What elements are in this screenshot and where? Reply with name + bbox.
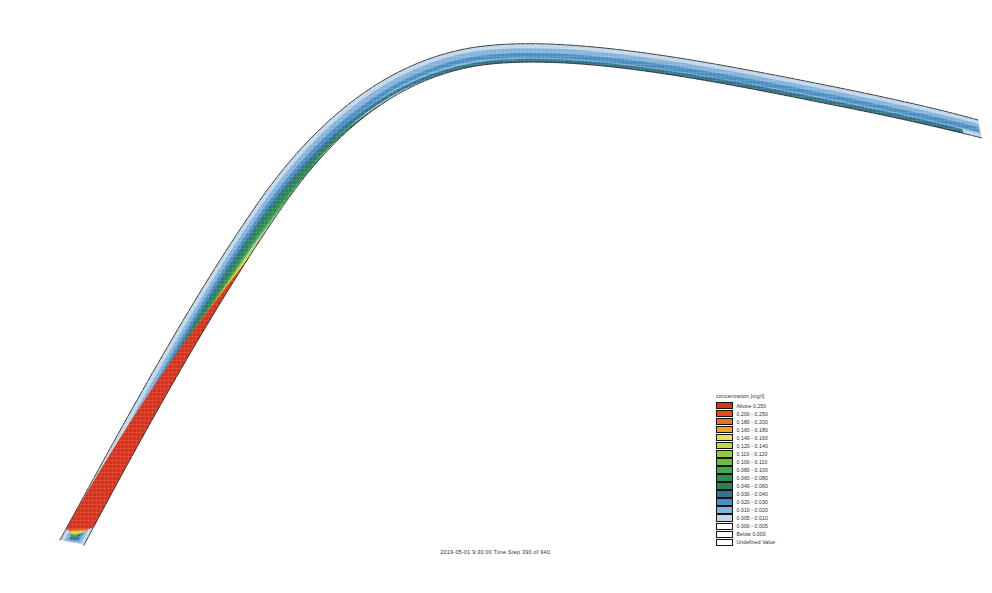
legend-entry: Below 0.000 (714, 530, 818, 538)
legend-entry: 0.100 - 0.110 (714, 458, 818, 466)
legend-entry: 0.110 - 0.120 (714, 450, 818, 458)
legend-entry: 0.160 - 0.180 (714, 426, 818, 434)
legend-entry-label: 0.020 - 0.030 (737, 498, 768, 506)
legend-color-swatch (716, 458, 733, 465)
legend-color-swatch (716, 523, 733, 530)
legend-entry-label: 0.110 - 0.120 (737, 450, 768, 458)
legend-entry: Above 0.250 (714, 402, 818, 410)
legend-entry-label: 0.040 - 0.060 (737, 482, 768, 490)
legend-color-swatch (716, 442, 733, 449)
band-above-0.250 (66, 106, 714, 529)
legend-entry: 0.030 - 0.040 (714, 490, 818, 498)
legend-entry-label: 0.200 - 0.250 (737, 410, 768, 418)
river-contour-canvas (0, 0, 992, 593)
legend-entry-label: 0.030 - 0.040 (737, 490, 768, 498)
legend-color-swatch (716, 474, 733, 481)
legend-entry-label: 0.120 - 0.140 (737, 442, 768, 450)
legend-entry-label: 0.140 - 0.160 (737, 434, 768, 442)
channel-bank-left (60, 44, 978, 540)
legend-color-swatch (716, 531, 733, 538)
concentration-legend: concentration [mg/l] Above 0.2500.200 - … (714, 393, 818, 546)
legend-entry-label: 0.010 - 0.020 (737, 506, 768, 514)
legend-entry-label: 0.060 - 0.080 (737, 474, 768, 482)
legend-entry-label: Below 0.000 (737, 530, 766, 538)
legend-color-swatch (716, 539, 733, 546)
legend-entry: 0.000 - 0.005 (714, 522, 818, 530)
legend-rows: Above 0.2500.200 - 0.2500.180 - 0.2000.1… (714, 402, 818, 547)
legend-entry: 0.200 - 0.250 (714, 410, 818, 418)
legend-entry: 0.120 - 0.140 (714, 442, 818, 450)
legend-entry: 0.020 - 0.030 (714, 498, 818, 506)
contour-map-figure: concentration [mg/l] Above 0.2500.200 - … (0, 0, 992, 593)
legend-color-swatch (716, 466, 733, 473)
legend-color-swatch (716, 418, 733, 425)
legend-entry-label: Undefined Value (737, 538, 776, 546)
legend-color-swatch (716, 450, 733, 457)
legend-color-swatch (716, 498, 733, 505)
legend-color-swatch (716, 514, 733, 521)
legend-entry: 0.040 - 0.060 (714, 482, 818, 490)
legend-entry: 0.180 - 0.200 (714, 418, 818, 426)
legend-entry-label: 0.160 - 0.180 (737, 426, 768, 434)
legend-color-swatch (716, 426, 733, 433)
band-0.160-0.180 (69, 93, 771, 532)
legend-title: concentration [mg/l] (716, 393, 818, 400)
timestamp-caption: 2019-05-01 9:30:00 Time Step 390 of 940. (0, 548, 992, 557)
legend-entry: 0.080 - 0.100 (714, 466, 818, 474)
legend-entry-label: 0.100 - 0.110 (737, 458, 768, 466)
legend-color-swatch (716, 402, 733, 409)
band-0.180-0.200 (68, 96, 752, 531)
legend-entry-label: 0.005 - 0.010 (737, 514, 768, 522)
band-group-warm (66, 93, 771, 532)
legend-color-swatch (716, 434, 733, 441)
legend-entry: 0.140 - 0.160 (714, 434, 818, 442)
legend-entry: Undefined Value (714, 538, 818, 546)
band-0.120-0.140 (71, 85, 816, 534)
legend-entry-label: 0.180 - 0.200 (737, 418, 768, 426)
band-0.140-0.160 (70, 89, 792, 533)
band-0.200-0.250 (67, 100, 733, 530)
legend-entry: 0.005 - 0.010 (714, 514, 818, 522)
legend-entry-label: Above 0.250 (737, 402, 767, 410)
legend-color-swatch (716, 482, 733, 489)
legend-entry-label: 0.080 - 0.100 (737, 466, 768, 474)
legend-entry: 0.060 - 0.080 (714, 474, 818, 482)
legend-color-swatch (716, 490, 733, 497)
legend-entry-label: 0.000 - 0.005 (737, 522, 768, 530)
legend-color-swatch (716, 506, 733, 513)
legend-color-swatch (716, 410, 733, 417)
legend-entry: 0.010 - 0.020 (714, 506, 818, 514)
